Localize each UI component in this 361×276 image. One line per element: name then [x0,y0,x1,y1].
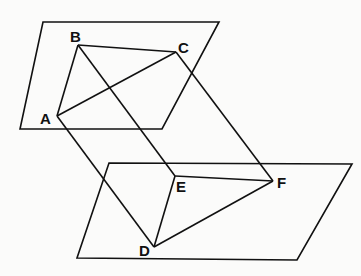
segment-DF [154,181,273,247]
segment-BE [78,45,175,176]
diagram-canvas: ABCDEF [0,0,361,276]
point-label-A: A [40,110,51,127]
segment-AB [57,45,78,116]
segment-EF [175,176,273,181]
segment-BC [78,45,176,52]
point-label-F: F [277,174,286,191]
point-label-C: C [178,39,189,56]
segments [57,45,273,247]
segment-CF [176,52,273,181]
segment-AD [57,116,154,247]
segment-AC [57,52,176,116]
point-label-E: E [176,178,186,195]
geometry-diagram: ABCDEF [0,0,361,276]
point-label-D: D [139,242,150,259]
point-label-B: B [70,28,81,45]
